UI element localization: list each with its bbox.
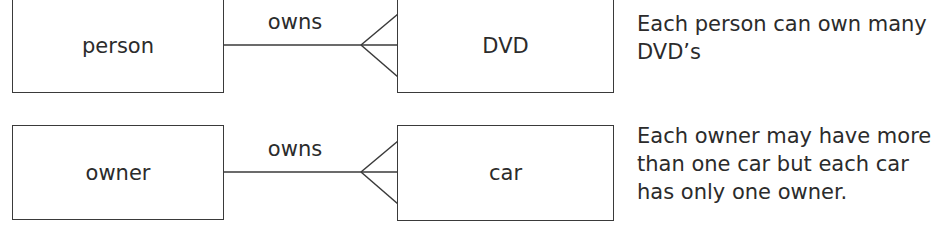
entity-label: person xyxy=(82,34,154,58)
entity-label: car xyxy=(489,161,522,185)
er-diagram: person owns DVD Each person can own many… xyxy=(0,0,939,238)
entity-dvd: DVD xyxy=(397,0,614,93)
relationship-label-owns: owns xyxy=(235,137,355,161)
relationship-description: Each person can own many DVD’s xyxy=(637,10,937,66)
relationship-label-owns: owns xyxy=(235,10,355,34)
entity-owner: owner xyxy=(12,125,224,220)
entity-car: car xyxy=(397,125,614,221)
entity-person: person xyxy=(12,0,224,93)
entity-label: DVD xyxy=(482,34,528,58)
relationship-description: Each owner may have more than one car bu… xyxy=(637,122,937,206)
entity-label: owner xyxy=(86,161,151,185)
